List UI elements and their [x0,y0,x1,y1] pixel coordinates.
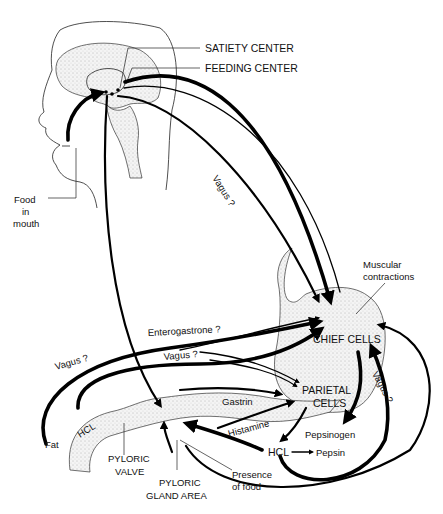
svg-text:mouth: mouth [13,218,39,229]
vagus-mid-label: Vagus ? [163,348,198,362]
histamine-label: Histamine [227,417,271,439]
presence-label-2: of food [232,481,261,492]
pepsinogen-label: Pepsinogen [305,429,355,440]
parietal-label-2: CELLS [313,397,346,409]
pepsin-label: Pepsin [316,447,345,458]
arrow-pyloric-up [164,424,172,452]
vagus-fat-label: Vagus ? [54,352,90,372]
feeding-center-label: FEEDING CENTER [205,62,298,74]
vagus-inner-label: Vagus ? [210,173,237,208]
hcl-stomach-label: HCL [268,446,289,458]
svg-text:Food: Food [14,194,36,205]
head-profile [39,22,200,209]
pyloric-valve-label-2: VALVE [115,466,144,477]
pyloric-valve-label-1: PYLORIC [108,453,150,464]
arrow-vagus-parallel [124,86,340,292]
muscular-label-2: contractions [363,271,414,282]
svg-text:in: in [22,206,29,217]
feeding-center-dot [104,90,108,94]
pyloric-gland-label-2: GLAND AREA [146,490,207,501]
presence-label-1: Presence [232,469,272,480]
gastrin-label: Gastrin [222,396,253,407]
fat-label: Fat [45,439,59,450]
gastric-regulation-diagram: SATIETY CENTER FEEDING CENTER Food in mo… [0,0,443,514]
food-in-mouth-label: Food in mouth [13,194,39,229]
pyloric-gland-label-1: PYLORIC [159,477,201,488]
muscular-label-1: Muscular [363,259,402,270]
enterogastrone-label: Enterogastrone ? [148,323,221,338]
brain-stem [106,104,142,178]
chief-cells-label: CHIEF CELLS [313,333,381,345]
parietal-label-1: PARIETAL [302,384,351,396]
arrow-vagus-inner [118,96,318,300]
satiety-center-dot [116,88,120,92]
center-dot [110,92,114,96]
satiety-center-label: SATIETY CENTER [205,42,294,54]
